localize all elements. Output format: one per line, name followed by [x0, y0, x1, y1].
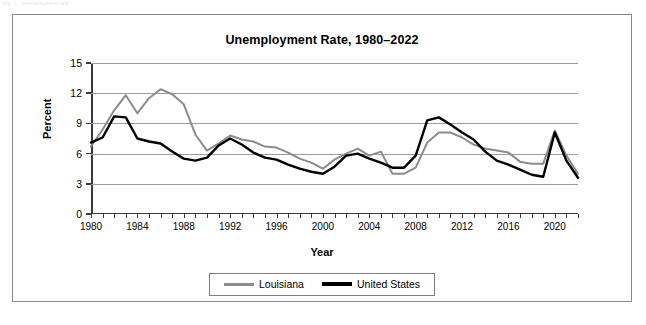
y-tick-label: 15 — [70, 57, 82, 69]
x-tick-mark — [207, 214, 208, 218]
x-tick-mark — [346, 214, 347, 218]
x-tick-mark — [450, 214, 451, 218]
legend-entry[interactable]: Louisiana — [224, 278, 304, 290]
x-tick-mark — [532, 214, 533, 218]
louisiana-line-swatch — [224, 283, 254, 286]
x-tick-mark — [311, 214, 312, 218]
x-tick-mark — [474, 214, 475, 218]
legend-label: United States — [357, 278, 420, 290]
x-tick-mark — [543, 214, 544, 218]
x-tick-mark — [265, 214, 266, 218]
x-tick-mark — [335, 214, 336, 218]
series-line-louisiana — [91, 89, 578, 174]
x-axis-label: Year — [13, 246, 631, 258]
x-tick-label: 1984 — [126, 221, 148, 232]
chart-title: Unemployment Rate, 1980–2022 — [13, 33, 631, 47]
x-tick-label: 1996 — [265, 221, 287, 232]
x-tick-mark — [161, 214, 162, 218]
series-layer — [91, 63, 578, 214]
x-tick-label: 2000 — [312, 221, 334, 232]
y-tick-label: 9 — [76, 117, 82, 129]
x-tick-mark — [404, 214, 405, 218]
united-states-line-swatch — [322, 282, 352, 286]
x-tick-mark — [392, 214, 393, 218]
x-tick-mark — [114, 214, 115, 218]
x-tick-mark — [416, 214, 417, 218]
legend-entry[interactable]: United States — [322, 278, 420, 290]
x-tick-label: 2020 — [544, 221, 566, 232]
y-tick-label: 0 — [76, 208, 82, 220]
x-tick-mark — [172, 214, 173, 218]
x-tick-label: 2004 — [358, 221, 380, 232]
x-tick-mark — [126, 214, 127, 218]
x-tick-mark — [184, 214, 185, 218]
x-tick-label: 1988 — [173, 221, 195, 232]
plot-area: 03691215 1980198419881992199620002004200… — [91, 63, 578, 214]
y-axis-label: Percent — [41, 99, 53, 139]
x-tick-mark — [137, 214, 138, 218]
x-tick-mark — [566, 214, 567, 218]
x-tick-mark — [508, 214, 509, 218]
x-tick-mark — [219, 214, 220, 218]
x-tick-mark — [578, 214, 579, 218]
x-tick-mark — [300, 214, 301, 218]
x-tick-mark — [358, 214, 359, 218]
x-tick-mark — [497, 214, 498, 218]
x-tick-mark — [149, 214, 150, 218]
series-line-united-states — [91, 116, 578, 177]
x-tick-mark — [462, 214, 463, 218]
x-tick-label: 1980 — [80, 221, 102, 232]
x-tick-mark — [427, 214, 428, 218]
faint-page-header: Fig. 1. Unemployment rate — [3, 0, 69, 6]
x-tick-mark — [195, 214, 196, 218]
x-tick-label: 2008 — [405, 221, 427, 232]
x-tick-mark — [288, 214, 289, 218]
x-tick-label: 2012 — [451, 221, 473, 232]
x-tick-mark — [103, 214, 104, 218]
x-tick-label: 1992 — [219, 221, 241, 232]
x-tick-mark — [439, 214, 440, 218]
x-tick-mark — [555, 214, 556, 218]
x-tick-mark — [520, 214, 521, 218]
y-tick-label: 12 — [70, 87, 82, 99]
x-tick-mark — [230, 214, 231, 218]
x-tick-mark — [381, 214, 382, 218]
y-tick-label: 6 — [76, 148, 82, 160]
x-tick-mark — [253, 214, 254, 218]
chart-frame: Unemployment Rate, 1980–2022 Percent 036… — [12, 14, 632, 302]
x-tick-mark — [369, 214, 370, 218]
x-tick-label: 2016 — [497, 221, 519, 232]
y-tick-label: 3 — [76, 178, 82, 190]
x-tick-mark — [277, 214, 278, 218]
x-tick-mark — [485, 214, 486, 218]
x-tick-mark — [242, 214, 243, 218]
chart-legend: LouisianaUnited States — [209, 273, 435, 296]
x-tick-mark — [323, 214, 324, 218]
legend-label: Louisiana — [259, 278, 304, 290]
x-tick-mark — [91, 214, 92, 218]
